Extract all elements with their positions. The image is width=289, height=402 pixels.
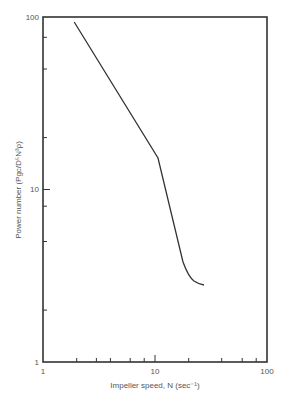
plot-frame (43, 17, 267, 362)
x-tick-label-10: 10 (151, 367, 160, 376)
chart: 1 10 100 1 10 100 Impeller speed, N (sec… (0, 0, 289, 402)
x-ticks (77, 355, 257, 362)
y-axis-label: Power number (Pgᴄ/D⁵N³ρ) (14, 141, 23, 239)
y-ticks (43, 37, 50, 310)
y-tick-label-1: 1 (35, 358, 40, 367)
x-axis-label: Impeller speed, N (sec⁻¹) (110, 381, 200, 390)
power-curve (74, 22, 204, 285)
y-tick-label-10: 10 (30, 185, 39, 194)
x-tick-label-100: 100 (260, 367, 274, 376)
x-tick-label-1: 1 (41, 367, 46, 376)
y-tick-label-100: 100 (26, 13, 40, 22)
